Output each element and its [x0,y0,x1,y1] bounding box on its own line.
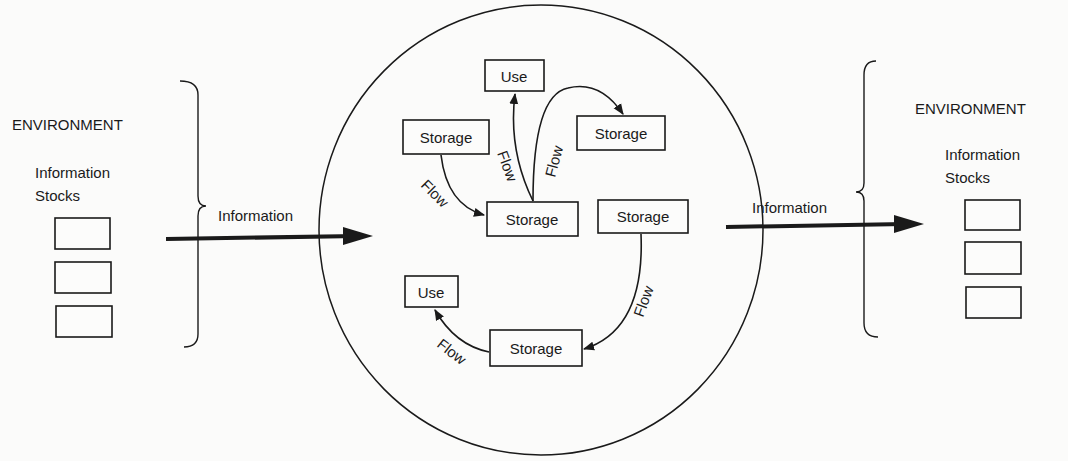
svg-text:Storage: Storage [420,129,473,146]
left-environment-brace [180,81,206,347]
node-storage-top-left: Storage [403,120,489,154]
right-stock-box-1 [965,200,1020,230]
node-storage-center: Storage [487,202,578,236]
left-stocks-label-line1: Information [35,164,110,181]
input-arrow-line [166,236,358,239]
flow-storage-top-left-to-center: Flow [418,155,484,215]
left-stock-box-1 [55,218,110,249]
svg-text:Flow: Flow [630,283,657,319]
input-arrowhead-icon [343,227,373,245]
right-environment-brace [856,61,878,337]
right-environment-title: ENVIRONMENT [915,100,1026,117]
input-information-arrow: Information [166,207,373,245]
left-environment-title: ENVIRONMENT [12,116,123,133]
flow-center-to-use-top: Flow [494,94,533,201]
flow-storage-right-to-bottom: Flow [584,234,657,349]
right-stock-box-2 [965,242,1021,274]
svg-text:Storage: Storage [510,340,563,357]
left-stocks-label-line2: Stocks [35,187,80,204]
svg-text:Storage: Storage [617,208,670,225]
svg-text:Use: Use [501,68,528,85]
output-arrowhead-icon [894,215,924,233]
node-storage-top-right: Storage [577,116,665,150]
right-stocks-label-line1: Information [945,146,1020,163]
svg-text:Storage: Storage [506,211,559,228]
right-environment: ENVIRONMENT Information Stocks [856,61,1026,337]
left-environment: ENVIRONMENT Information Stocks [12,81,206,347]
flow-storage-bottom-to-use-bottom: Flow [434,310,489,368]
svg-text:Storage: Storage [595,125,648,142]
svg-text:Use: Use [418,284,445,301]
svg-text:Flow: Flow [434,335,470,368]
output-arrow-line [726,224,905,227]
left-stock-box-2 [55,262,111,293]
output-arrow-label: Information [752,199,827,216]
node-storage-bottom: Storage [490,330,582,366]
svg-text:Flow: Flow [541,144,566,179]
right-stocks-label-line2: Stocks [945,169,990,186]
input-arrow-label: Information [218,207,293,224]
output-information-arrow: Information [726,199,924,233]
left-stock-box-3 [56,306,112,337]
node-use-bottom: Use [405,276,458,307]
node-use-top: Use [485,60,544,91]
information-flow-diagram: ENVIRONMENT Information Stocks Informati… [0,0,1068,461]
node-storage-right: Storage [598,200,688,233]
right-stock-box-3 [966,287,1021,318]
